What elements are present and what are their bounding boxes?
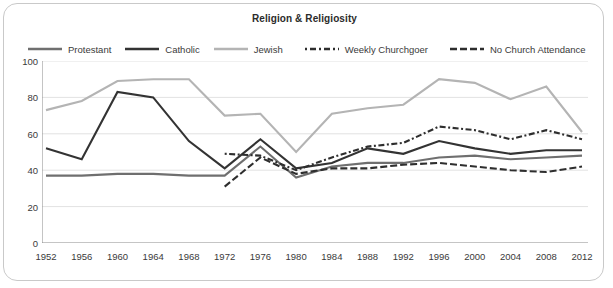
plot-area: 0204060801001952195619601964196819721976…: [42, 61, 588, 243]
legend-label: Weekly Churchgoer: [345, 44, 428, 55]
legend-swatch-icon: [28, 42, 62, 56]
x-axis-tick-label: 1980: [286, 251, 307, 262]
y-axis-tick-label: 80: [27, 92, 38, 103]
x-axis-tick-label: 1964: [143, 251, 164, 262]
x-axis-tick-label: 1972: [214, 251, 235, 262]
x-axis-tick-label: 1968: [178, 251, 199, 262]
x-axis-tick-label: 2012: [571, 251, 592, 262]
x-axis-tick-label: 1996: [428, 251, 449, 262]
x-axis-tick-label: 1992: [393, 251, 414, 262]
x-axis-tick-label: 2008: [536, 251, 557, 262]
series-line-jewish: [46, 79, 582, 152]
chart-legend: ProtestantCatholicJewishWeekly Churchgoe…: [28, 42, 588, 56]
series-line-catholic: [46, 92, 582, 168]
x-axis-tick-label: 2004: [500, 251, 521, 262]
legend-swatch-icon: [125, 42, 159, 56]
y-axis-tick-label: 40: [27, 165, 38, 176]
legend-label: No Church Attendance: [490, 44, 586, 55]
x-axis-tick-label: 1976: [250, 251, 271, 262]
x-axis-tick-label: 1956: [71, 251, 92, 262]
y-axis-tick-label: 60: [27, 128, 38, 139]
x-axis-tick-label: 1984: [321, 251, 342, 262]
legend-swatch-icon: [305, 42, 339, 56]
chart-svg: [42, 61, 588, 243]
chart-title: Religion & Religiosity: [4, 13, 605, 24]
legend-item-protestant[interactable]: Protestant: [28, 42, 111, 56]
legend-label: Catholic: [165, 44, 199, 55]
y-axis-tick-label: 20: [27, 201, 38, 212]
legend-swatch-icon: [214, 42, 248, 56]
legend-item-catholic[interactable]: Catholic: [125, 42, 199, 56]
legend-label: Jewish: [254, 44, 283, 55]
legend-item-jewish[interactable]: Jewish: [214, 42, 283, 56]
y-axis-tick-label: 0: [33, 238, 38, 249]
x-axis-tick-label: 1952: [35, 251, 56, 262]
x-axis-tick-label: 2000: [464, 251, 485, 262]
x-axis-tick-label: 1988: [357, 251, 378, 262]
legend-item-no-church-attendance[interactable]: No Church Attendance: [450, 42, 586, 56]
series-line-protestant: [46, 147, 582, 178]
y-axis-tick-label: 100: [22, 56, 38, 67]
x-axis-tick-label: 1960: [107, 251, 128, 262]
legend-swatch-icon: [450, 42, 484, 56]
legend-item-weekly-churchgoer[interactable]: Weekly Churchgoer: [305, 42, 428, 56]
legend-label: Protestant: [68, 44, 111, 55]
chart-panel: Religion & Religiosity ProtestantCatholi…: [3, 3, 604, 281]
